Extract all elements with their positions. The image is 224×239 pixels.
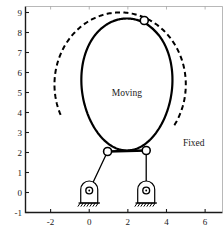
y-tick-label: 4 xyxy=(18,108,23,118)
x-tick-label: -2 xyxy=(47,217,55,227)
y-tick-label: 7 xyxy=(18,48,23,58)
fixed-label: Fixed xyxy=(183,138,205,148)
mechanism-figure: -10123456789-20246MovingFixed xyxy=(0,0,224,239)
y-tick-label: 9 xyxy=(18,8,23,18)
y-tick-label: 5 xyxy=(18,88,23,98)
x-tick-label: 4 xyxy=(164,217,169,227)
y-tick-label: 0 xyxy=(18,188,23,198)
coupler-left-joint xyxy=(104,148,112,156)
y-tick-label: 3 xyxy=(18,128,23,138)
coupler-right-joint xyxy=(142,147,150,155)
moving-label: Moving xyxy=(112,88,142,98)
figure-background xyxy=(0,0,224,239)
y-tick-label: 6 xyxy=(18,68,23,78)
x-tick-label: 2 xyxy=(126,217,131,227)
coupler-top-joint xyxy=(140,17,148,25)
plot-canvas: -10123456789-20246MovingFixed xyxy=(0,0,224,239)
y-tick-label: 8 xyxy=(18,28,23,38)
y-tick-label: 1 xyxy=(18,168,23,178)
y-tick-label: -1 xyxy=(15,208,23,218)
coupler-link xyxy=(108,151,147,152)
pivot-center-dot xyxy=(88,190,90,192)
x-tick-label: 6 xyxy=(203,217,208,227)
y-tick-label: 2 xyxy=(18,148,23,158)
pivot-center-dot xyxy=(145,190,147,192)
x-tick-label: 0 xyxy=(87,217,92,227)
